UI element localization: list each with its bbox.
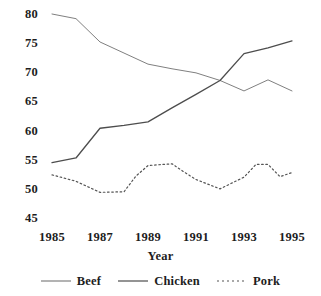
x-tick-label: 1993	[231, 231, 257, 244]
x-tick-label: 1995	[279, 231, 305, 244]
y-axis-tick-labels: 4550556065707580	[4, 0, 38, 232]
x-tick-label: 1985	[39, 231, 65, 244]
x-axis-title: Year	[0, 249, 321, 264]
legend-swatch-pork-icon	[217, 276, 247, 286]
y-tick-label: 75	[8, 37, 38, 50]
legend-item-pork[interactable]: Pork	[217, 275, 280, 288]
series-layer	[52, 14, 292, 192]
y-tick-label: 50	[8, 183, 38, 196]
legend-item-beef[interactable]: Beef	[41, 275, 101, 288]
y-tick-label: 70	[8, 66, 38, 79]
y-tick-label: 65	[8, 95, 38, 108]
x-tick-label: 1987	[87, 231, 113, 244]
legend-label: Beef	[77, 275, 101, 288]
legend-label: Pork	[253, 275, 280, 288]
legend-label: Chicken	[154, 275, 200, 288]
series-line-beef	[52, 14, 292, 91]
plot-area	[0, 0, 321, 232]
y-tick-label: 80	[8, 8, 38, 21]
legend-swatch-beef-icon	[41, 276, 71, 286]
plot-svg	[0, 0, 321, 232]
y-tick-label: 55	[8, 154, 38, 167]
series-line-chicken	[52, 41, 292, 163]
chart-legend: BeefChickenPork	[0, 270, 321, 292]
y-tick-label: 60	[8, 125, 38, 138]
x-tick-label: 1991	[183, 231, 209, 244]
legend-swatch-chicken-icon	[118, 276, 148, 286]
line-chart: 4550556065707580 19851987198919911993199…	[0, 0, 321, 296]
series-line-pork	[52, 164, 292, 193]
legend-item-chicken[interactable]: Chicken	[118, 275, 200, 288]
y-tick-label: 45	[8, 212, 38, 225]
x-tick-label: 1989	[135, 231, 161, 244]
x-axis-tick-labels: 198519871989199119931995	[0, 231, 321, 251]
